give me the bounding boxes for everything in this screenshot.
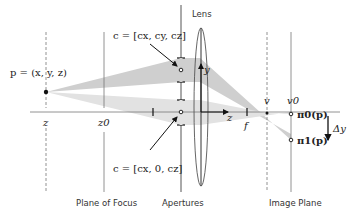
focus-point bbox=[266, 112, 269, 115]
aperture-center-bottom bbox=[179, 110, 183, 114]
pi1-label: π1(p) bbox=[297, 135, 328, 146]
thin-lens-diagram: Lens Plane of Focus Apertures Image Plan… bbox=[0, 0, 362, 220]
aperture-center-top bbox=[179, 68, 183, 72]
plane-of-focus-label: Plane of Focus bbox=[76, 198, 138, 208]
axis-label-z: z bbox=[226, 112, 233, 123]
axis-label-y: y bbox=[203, 64, 210, 75]
axis-label-f: f bbox=[243, 120, 250, 131]
apertures-label: Apertures bbox=[162, 198, 204, 208]
aperture-top-label: c = [cx, cy, cz] bbox=[113, 30, 186, 41]
axis-label-v: v bbox=[264, 95, 270, 106]
point-p bbox=[44, 90, 48, 94]
delta-y-label: Δy bbox=[332, 123, 346, 134]
aperture-bottom-label: c = [cx, 0, cz] bbox=[113, 163, 182, 174]
image-plane-label: Image Plane bbox=[269, 198, 322, 208]
axis-label-v0: v0 bbox=[287, 95, 300, 106]
lens-label: Lens bbox=[192, 9, 212, 19]
arrow-to-aperture-bottom bbox=[150, 117, 177, 150]
axis-label-z-point: z bbox=[42, 117, 49, 128]
pi0-label: π0(p) bbox=[297, 109, 328, 120]
ray-cone-top-out bbox=[181, 58, 291, 140]
ray-cone-bottom-out bbox=[181, 100, 291, 125]
projection-pi0 bbox=[289, 112, 293, 116]
diagram-canvas: Lens Plane of Focus Apertures Image Plan… bbox=[0, 0, 362, 220]
ray-cone-bottom-in bbox=[46, 92, 181, 125]
point-p-label: p = (x, y, z) bbox=[10, 67, 67, 78]
projection-pi1 bbox=[289, 138, 293, 142]
axis-label-z0: z0 bbox=[97, 117, 110, 128]
